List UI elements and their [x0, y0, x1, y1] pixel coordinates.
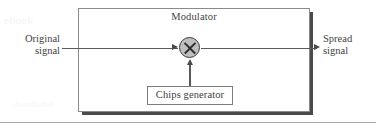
chips-generator-block: Chips generator — [147, 86, 233, 105]
output-port-label: Spread signal — [323, 33, 375, 56]
input-signal-line — [62, 48, 178, 49]
chips-generator-label: Chips generator — [156, 90, 224, 101]
page-divider-rule — [0, 122, 376, 123]
figure-canvas: ebook downloaded Modulator Chips generat… — [0, 0, 376, 129]
output-port-label-line1: Spread — [323, 33, 375, 45]
input-port-label: Original signal — [2, 33, 60, 56]
input-port-label-line2: signal — [2, 45, 60, 57]
output-port-label-line2: signal — [323, 45, 375, 57]
arrow-into-multiplier-icon — [172, 44, 178, 50]
output-signal-line — [201, 48, 317, 49]
multiplier-circle-icon — [179, 37, 200, 58]
arrow-to-spread-signal-icon — [314, 44, 320, 50]
modulator-shadow-right — [310, 12, 313, 115]
watermark-text-secondary: downloaded — [14, 100, 74, 114]
chips-generator-line — [189, 65, 190, 86]
modulator-label: Modulator — [78, 11, 310, 22]
input-port-label-line1: Original — [2, 33, 60, 45]
modulator-shadow-bottom — [82, 112, 313, 115]
